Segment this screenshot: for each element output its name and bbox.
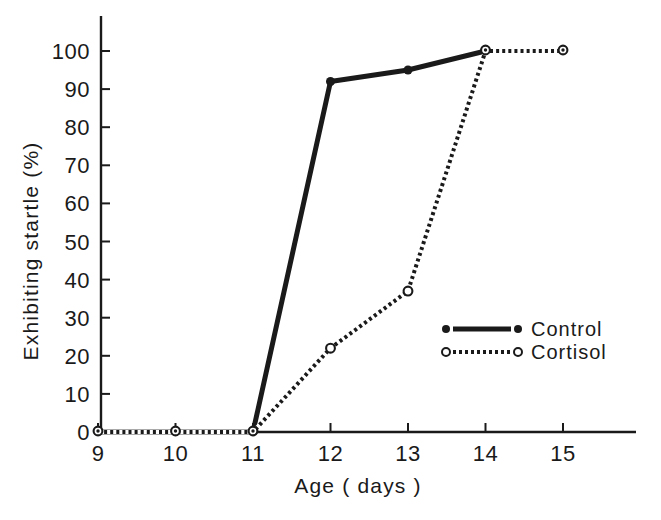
legend-label-cortisol: Cortisol [531, 341, 607, 363]
control-marker [404, 66, 413, 75]
series-lines [98, 51, 563, 432]
y-tick-label: 80 [65, 115, 90, 140]
x-tick-label: 15 [550, 441, 575, 466]
y-tick-label: 10 [65, 382, 90, 407]
cortisol-marker [326, 344, 335, 353]
y-tick-label: 0 [77, 420, 90, 445]
cortisol-line [98, 51, 563, 432]
y-tick-label: 70 [65, 153, 90, 178]
figure-canvas: 91011121314150102030405060708090100 Age … [0, 0, 661, 520]
axes: 91011121314150102030405060708090100 [52, 16, 636, 466]
x-tick-label: 10 [163, 441, 188, 466]
legend-cortisol-circle-right [514, 348, 522, 356]
y-tick-label: 100 [52, 39, 90, 64]
control-marker [326, 77, 335, 86]
y-tick-label: 50 [65, 230, 90, 255]
legend-label-control: Control [531, 318, 602, 340]
legend: Control Cortisol [442, 318, 607, 363]
combined-marker-dot [561, 48, 564, 51]
y-tick-label: 30 [65, 306, 90, 331]
combined-marker-dot [174, 429, 177, 432]
series-markers [94, 46, 568, 436]
startle-line-chart: 91011121314150102030405060708090100 Age … [0, 0, 661, 520]
cortisol-marker [404, 287, 413, 296]
cortisol-line-underlay [98, 51, 563, 432]
x-tick-label: 14 [473, 441, 498, 466]
x-axis-label: Age ( days ) [294, 474, 422, 497]
x-tick-label: 13 [395, 441, 420, 466]
combined-marker-dot [484, 48, 487, 51]
y-tick-label: 60 [65, 191, 90, 216]
y-axis-label: Exhibiting startle (%) [19, 142, 42, 361]
x-tick-label: 12 [318, 441, 343, 466]
legend-cortisol-circle-left [442, 348, 450, 356]
combined-marker-dot [251, 429, 254, 432]
x-tick-label: 11 [241, 441, 265, 466]
legend-control-dot-left [442, 325, 450, 333]
control-line [98, 51, 486, 432]
combined-marker-dot [96, 429, 99, 432]
legend-swatches [442, 325, 522, 356]
legend-control-dot-right [514, 325, 522, 333]
y-tick-label: 40 [65, 268, 90, 293]
x-tick-label: 9 [92, 441, 105, 466]
y-tick-label: 20 [65, 344, 90, 369]
y-tick-label: 90 [65, 77, 90, 102]
